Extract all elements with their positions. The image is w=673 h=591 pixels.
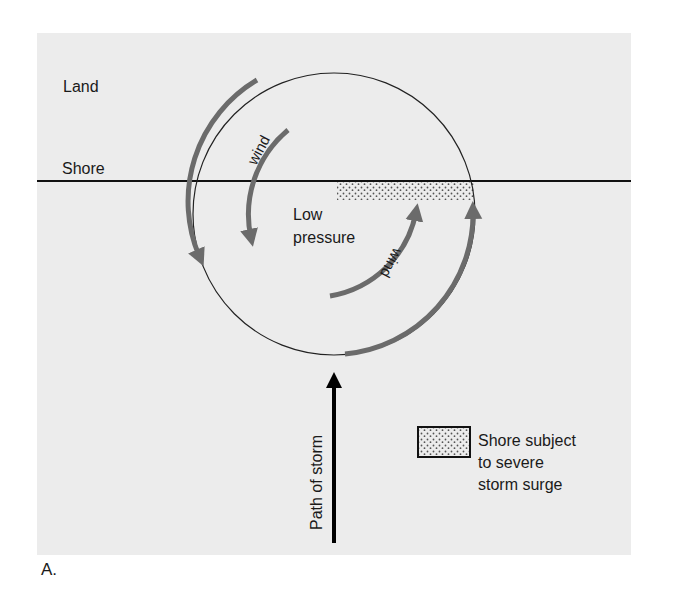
shore-label: Shore: [62, 160, 105, 177]
low-pressure-label-line1: Low: [293, 206, 323, 223]
land-label: Land: [63, 78, 99, 95]
legend-text-line3: storm surge: [478, 476, 563, 493]
legend-swatch: [418, 427, 470, 457]
figure-caption: A.: [41, 560, 57, 580]
path-of-storm-label: Path of storm: [308, 435, 325, 530]
legend-text-line2: to severe: [478, 454, 544, 471]
storm-surge-diagram: Land Shore Low pressure wind wind Path o…: [0, 0, 673, 591]
legend-text-line1: Shore subject: [478, 432, 576, 449]
storm-surge-zone: [337, 182, 474, 200]
low-pressure-label-line2: pressure: [293, 229, 355, 246]
